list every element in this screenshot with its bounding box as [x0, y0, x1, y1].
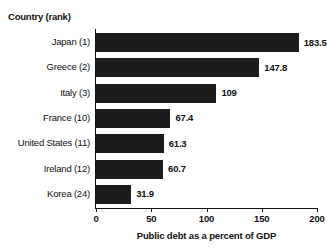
category-label: France (10) — [43, 112, 90, 123]
plot-area: Japan (1)183.5Greece (2)147.8Italy (3)10… — [96, 30, 317, 207]
x-tick-mark — [317, 208, 318, 212]
bar-value-label: 60.7 — [168, 163, 186, 174]
x-tick-mark — [262, 208, 263, 212]
bar-row: Greece (2)147.8 — [96, 55, 317, 80]
y-axis-title: Country (rank) — [8, 11, 71, 22]
x-tick-label: 100 — [199, 213, 214, 224]
bar — [96, 109, 170, 128]
category-label: Italy (3) — [60, 87, 90, 98]
bar-value-label: 31.9 — [136, 188, 154, 199]
bar-value-label: 61.3 — [169, 138, 187, 149]
category-label: United States (11) — [18, 137, 90, 148]
bar-row: Korea (24)31.9 — [96, 182, 317, 207]
bar-chart: Country (rank) Japan (1)183.5Greece (2)1… — [0, 0, 333, 250]
bar-row: Ireland (12)60.7 — [96, 157, 317, 182]
category-label: Japan (1) — [52, 36, 90, 47]
bar-value-label: 109 — [221, 87, 236, 98]
x-tick-label: 150 — [254, 213, 269, 224]
x-tick-label: 200 — [309, 213, 324, 224]
bar — [96, 134, 164, 153]
bar — [96, 84, 216, 103]
x-tick-mark — [151, 208, 152, 212]
x-tick-label: 0 — [93, 213, 98, 224]
bar — [96, 185, 131, 204]
bar-value-label: 183.5 — [304, 37, 327, 48]
bar-row: United States (11)61.3 — [96, 131, 317, 156]
x-tick-mark — [96, 208, 97, 212]
category-label: Greece (2) — [47, 61, 90, 72]
bar-row: Italy (3)109 — [96, 81, 317, 106]
x-axis-title: Public debt as a percent of GDP — [96, 230, 317, 241]
bar-value-label: 67.4 — [175, 112, 193, 123]
category-label: Korea (24) — [47, 188, 90, 199]
bar — [96, 33, 299, 52]
x-tick-mark — [207, 208, 208, 212]
bar-value-label: 147.8 — [264, 62, 287, 73]
bar — [96, 160, 163, 179]
bar-row: Japan (1)183.5 — [96, 30, 317, 55]
category-label: Ireland (12) — [44, 163, 90, 174]
bar-row: France (10)67.4 — [96, 106, 317, 131]
x-tick-label: 50 — [146, 213, 156, 224]
bar — [96, 58, 259, 77]
